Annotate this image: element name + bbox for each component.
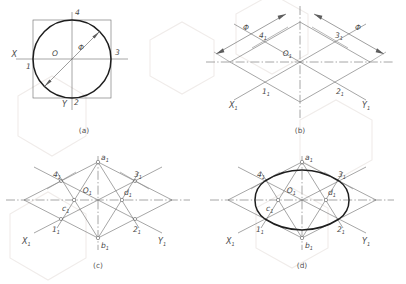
- point-label-b-1: b1: [101, 241, 109, 251]
- isometric-axis-y1: [300, 62, 366, 100]
- point-label-3-1: 31: [335, 31, 343, 41]
- point-label-2-1: 21: [133, 225, 141, 235]
- technical-drawing-sheet: X 1 Y 2 3 4 O Φ (a) Φ: [0, 0, 406, 284]
- point-label-c-1: c1: [62, 204, 69, 214]
- isometric-axis-y1: [302, 200, 366, 233]
- arc-centre-c1: [276, 198, 279, 201]
- panel-caption-b: (b): [295, 126, 306, 135]
- point-label-4-1: 41: [257, 170, 265, 180]
- arc-centre-d1: [324, 198, 327, 201]
- axis-label-y-1: Y1: [362, 237, 370, 247]
- arc-centre-b1: [96, 236, 99, 239]
- axis-label-y-1: Y1: [158, 237, 166, 247]
- axis-label-y: Y: [62, 100, 68, 109]
- arc-centre-d1: [120, 198, 123, 201]
- axis-label-x-1: X1: [21, 237, 31, 247]
- arrowhead-icon: [278, 14, 286, 20]
- panel-caption-d: (d): [297, 261, 308, 270]
- arrowhead-icon: [314, 14, 322, 20]
- point-label-2: 2: [74, 98, 79, 107]
- point-label-3-1: 31: [134, 170, 142, 180]
- extension-line-right: [370, 52, 386, 62]
- background-watermark: [10, 0, 372, 280]
- point-label-d-1: d1: [124, 188, 132, 198]
- point-label-a-1: a1: [305, 153, 313, 163]
- point-label-c-1: c1: [266, 204, 273, 214]
- point-label-1: 1: [26, 62, 31, 71]
- axis-label-y-1: Y1: [362, 101, 370, 111]
- arrowhead-icon: [216, 48, 224, 54]
- construction-line-a1-to-2: [98, 162, 139, 228]
- panel-c: a1 b1 41 31 11 21 c1 d1 O1 X1 Y1 (c): [6, 153, 190, 270]
- center-label-o-1: O1: [287, 186, 296, 196]
- point-label-1-1: 11: [52, 225, 60, 235]
- point-label-a-1: a1: [101, 153, 109, 163]
- axis-label-x-1: X1: [225, 237, 235, 247]
- arc-centre-a1: [300, 160, 303, 163]
- center-label-o: O: [52, 49, 58, 58]
- point-label-4: 4: [75, 8, 80, 17]
- axis-label-x: X: [11, 50, 18, 59]
- isometric-axis-y1: [98, 200, 162, 233]
- panel-d: a1 b1 41 31 11 21 c1 d1 O1 X1 Y1 (d): [210, 153, 394, 270]
- point-label-4-1: 41: [259, 31, 267, 41]
- point-label-2-1: 21: [336, 87, 344, 97]
- point-label-1-1: 11: [256, 225, 264, 235]
- center-label-o-1: O1: [283, 49, 292, 59]
- arc-centre-b1: [300, 236, 303, 239]
- panel-caption-c: (c): [93, 261, 103, 270]
- arc-centre-a1: [96, 160, 99, 163]
- arc-centre-c1: [72, 198, 75, 201]
- panel-a: X 1 Y 2 3 4 O Φ (a): [11, 8, 128, 135]
- point-label-4-1: 41: [53, 170, 61, 180]
- panel-b: Φ Φ 41 31 11 21 O1 X1 Y1 (b): [206, 6, 394, 135]
- point-label-b-1: b1: [305, 241, 313, 251]
- dimension-label-right: Φ: [355, 23, 361, 32]
- point-label-3-1: 31: [338, 170, 346, 180]
- dimension-label-left: Φ: [243, 23, 249, 32]
- panel-caption-a: (a): [79, 126, 89, 135]
- point-label-1-1: 11: [262, 87, 270, 97]
- diameter-symbol: Φ: [78, 43, 84, 52]
- extension-line-left: [214, 52, 230, 62]
- point-label-2-1: 21: [337, 225, 345, 235]
- point-label-3: 3: [115, 48, 120, 57]
- axis-label-x-1: X1: [228, 101, 238, 111]
- center-label-o-1: O1: [83, 186, 92, 196]
- arrowhead-icon: [376, 48, 384, 54]
- point-label-d-1: d1: [328, 188, 336, 198]
